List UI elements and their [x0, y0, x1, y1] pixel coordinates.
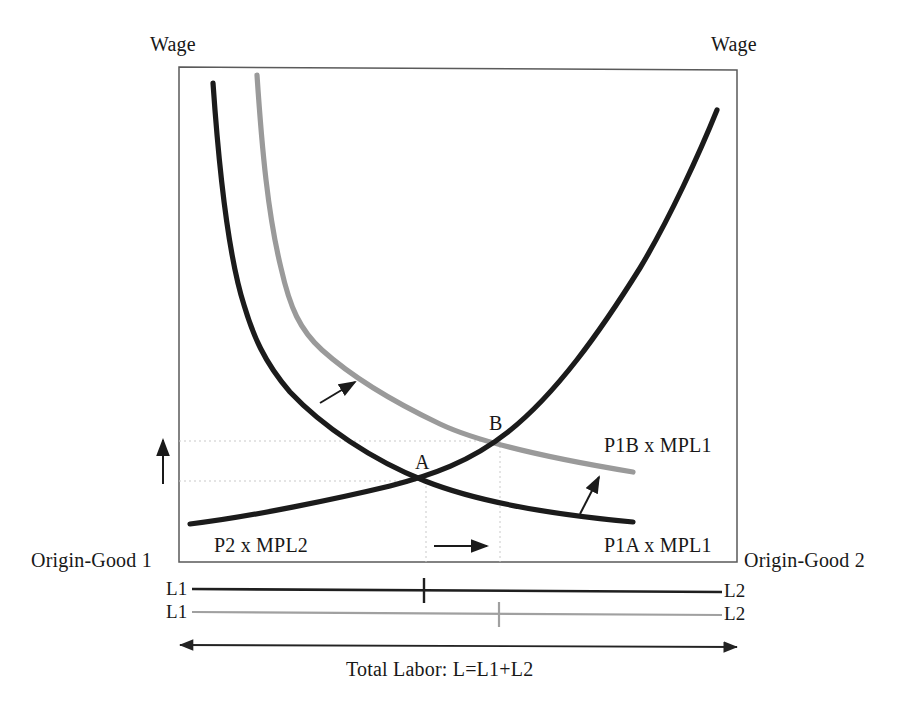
point-label-a: A: [415, 452, 430, 472]
curve-shift-arrow: [320, 382, 355, 403]
bar-new-left-label: L1: [166, 602, 188, 621]
total-labor-label: Total Labor: L=L1+L2: [346, 659, 533, 679]
curve-label-p2: P2 x MPL2: [214, 535, 308, 555]
curve-p2: [190, 110, 717, 524]
wage-label-left: Wage: [150, 34, 196, 54]
point-label-b: B: [489, 413, 503, 433]
total-labor-arrow: [180, 645, 737, 647]
wage-label-right: Wage: [711, 34, 757, 54]
diagram-canvas: Wage Wage Origin-Good 1 Origin-Good 2 P2…: [0, 0, 919, 707]
labor-bar-initial: [192, 578, 722, 603]
origin-good-1-label: Origin-Good 1: [31, 550, 152, 570]
labor-bar-new: [192, 602, 722, 627]
bar-new-right-label: L2: [724, 604, 746, 623]
bar-initial-left-label: L1: [166, 579, 188, 598]
labor-allocation-svg: [0, 0, 919, 707]
bar-initial-right-label: L2: [724, 581, 746, 600]
curve-shift-arrow-2: [580, 477, 599, 514]
origin-good-2-label: Origin-Good 2: [744, 550, 865, 570]
curve-label-p1a: P1A x MPL1: [604, 535, 712, 555]
curve-label-p1b: P1B x MPL1: [604, 435, 712, 455]
